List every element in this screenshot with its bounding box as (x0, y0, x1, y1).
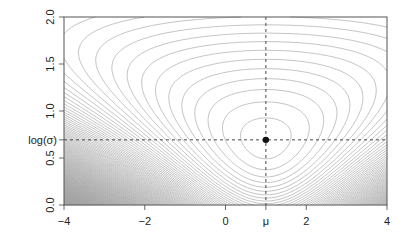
x-axis: −4−20μ24 (58, 205, 390, 227)
y-tick-label: 0.5 (44, 150, 56, 165)
y-axis: 0.00.5log(σ)1.01.52.0 (28, 9, 64, 212)
y-tick-label-log-sigma: log(σ) (28, 134, 57, 146)
x-tick-label: μ (263, 215, 269, 227)
x-tick-label: 2 (303, 215, 309, 227)
contour-lines (64, 17, 387, 205)
x-tick-label: −2 (138, 215, 151, 227)
contour-chart: −4−20μ24 0.00.5log(σ)1.01.52.0 (0, 0, 407, 241)
optimum-point (263, 137, 269, 143)
x-tick-label: 4 (384, 215, 390, 227)
y-tick-label: 1.5 (44, 56, 56, 71)
x-tick-label: −4 (58, 215, 71, 227)
y-tick-label: 0.0 (44, 197, 56, 212)
y-tick-label: 1.0 (44, 103, 56, 118)
contour-path (64, 17, 387, 205)
y-tick-label: 2.0 (44, 9, 56, 24)
x-tick-label: 0 (222, 215, 228, 227)
